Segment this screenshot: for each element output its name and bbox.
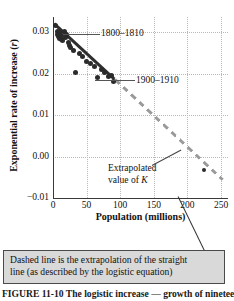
- leader-line-extrapolated-k: [152, 150, 182, 166]
- gridline-y-0.01: [53, 115, 228, 116]
- y-axis-title-paren: ): [8, 39, 19, 42]
- gridline-x-50: [87, 17, 88, 198]
- y-axis-title: Exponential rate of increase (r): [8, 21, 19, 191]
- x-axis-line: [53, 198, 228, 199]
- extrapolated-label-line1: Extrapolated: [108, 163, 157, 173]
- x-tick-250: 250: [206, 200, 234, 210]
- leader-line-1900-1910: [95, 80, 135, 81]
- leader-line-1800-1810: [63, 34, 100, 35]
- data-point-k: [202, 168, 206, 172]
- annotation-extrapolated-value-of-k: Extrapolated value of K: [108, 163, 157, 186]
- data-point: [92, 64, 97, 69]
- x-tick-200: 200: [172, 200, 202, 210]
- x-tick-150: 150: [139, 200, 169, 210]
- data-point: [109, 73, 114, 78]
- data-point: [80, 54, 85, 59]
- gridline-x-200: [187, 17, 188, 198]
- x-tick-100: 100: [105, 200, 135, 210]
- x-axis-title: Population (millions): [53, 211, 228, 222]
- caption-line-2: line (as described by the logistic equat…: [10, 266, 218, 278]
- y-axis-title-variable: r: [8, 43, 19, 47]
- extrapolated-label-line2: value of: [108, 175, 141, 185]
- x-tick-50: 50: [72, 200, 102, 210]
- caption-callout-box: Dashed line is the extrapolation of the …: [3, 250, 225, 284]
- caption-line-1: Dashed line is the extrapolation of the …: [10, 254, 218, 266]
- figure-container: 0.03 0.02 0.01 0.00 −0.01 0 50 100 150 2…: [0, 0, 234, 301]
- x-tick-0: 0: [38, 200, 68, 210]
- gridline-x-250: [221, 17, 222, 198]
- annotation-1800-1810: 1800–1810: [101, 28, 144, 39]
- y-axis-line: [53, 17, 54, 198]
- plot-area: 0.03 0.02 0.01 0.00 −0.01 0 50 100 150 2…: [0, 0, 234, 215]
- data-point: [73, 70, 78, 75]
- figure-caption: FIGURE 11-10 The logistic increase — gro…: [2, 288, 234, 299]
- annotation-1900-1910: 1900–1910: [136, 75, 179, 86]
- y-axis-title-text: Exponential rate of increase (: [8, 46, 19, 171]
- data-point: [71, 48, 76, 53]
- carrying-capacity-symbol: K: [141, 175, 147, 185]
